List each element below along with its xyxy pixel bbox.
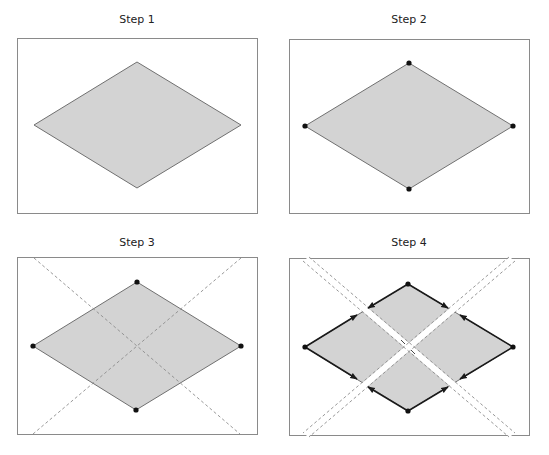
vertex-point (134, 279, 139, 284)
vertex-point (406, 186, 411, 191)
diagram-canvas: Step 1 Step 2 Step 3 Step 4 (0, 0, 549, 455)
vertex-point (133, 407, 138, 412)
vertex-point (510, 123, 515, 128)
vertex-point (405, 281, 410, 286)
vertex-point (302, 344, 307, 349)
panel-title: Step 3 (119, 236, 155, 249)
panel-step-4: Step 4 (290, 236, 530, 437)
vertex-point (510, 344, 515, 349)
panel-title: Step 2 (391, 13, 427, 26)
vertex-point (30, 343, 35, 348)
panel-step-2: Step 2 (290, 13, 530, 214)
vertex-point (302, 123, 307, 128)
panel-title: Step 4 (391, 236, 427, 249)
panel-title: Step 1 (119, 13, 155, 26)
panel-step-1: Step 1 (18, 13, 258, 214)
vertex-point (238, 343, 243, 348)
vertex-point (405, 408, 410, 413)
panel-step-3: Step 3 (18, 236, 258, 435)
vertex-point (406, 60, 411, 65)
